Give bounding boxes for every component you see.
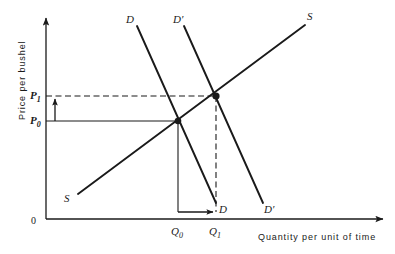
equilibrium-point-initial [175, 118, 182, 125]
x-axis-title: Quantity per unit of time [258, 233, 376, 242]
supply-curve [78, 25, 305, 194]
origin-label: 0 [31, 216, 36, 226]
curve-label-demand-shifted-bottom: D′ [264, 204, 274, 215]
curve-label-supply-bottom: S [64, 193, 70, 204]
price-tick-p1: P1 [30, 90, 41, 104]
curve-group [78, 25, 305, 203]
supply-demand-figure: P1 P0 Q0 Q1 D D′ D D′ S S 0 Price per bu… [0, 0, 395, 254]
quantity-tick-q1: Q1 [209, 226, 221, 240]
demand-curve [137, 26, 216, 203]
curve-label-demand-shifted-top: D′ [173, 14, 183, 25]
axis-group [46, 18, 383, 219]
chart-canvas [0, 0, 395, 254]
curve-label-demand-top: D [126, 14, 134, 25]
price-tick-p0: P0 [30, 115, 41, 129]
curve-label-demand-bottom: D [219, 204, 227, 215]
demand-shifted-curve [184, 26, 263, 203]
equilibrium-point-group [175, 92, 220, 124]
curve-label-supply-top: S [307, 11, 313, 22]
equilibrium-point-new [212, 92, 219, 99]
y-axis-title: Price per bushel [18, 41, 27, 120]
annotation-arrow-group [55, 99, 213, 212]
quantity-tick-q0: Q0 [171, 226, 183, 240]
